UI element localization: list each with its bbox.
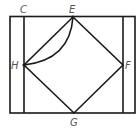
geometry-diagram: C E H F G: [0, 0, 137, 128]
label-e: E: [69, 4, 76, 15]
square-efgh: [24, 17, 123, 113]
point-h: [22, 63, 25, 66]
label-g: G: [70, 117, 78, 128]
label-f: F: [125, 60, 131, 71]
label-c: C: [20, 4, 27, 15]
point-e: [71, 15, 74, 18]
label-h: H: [11, 60, 19, 71]
